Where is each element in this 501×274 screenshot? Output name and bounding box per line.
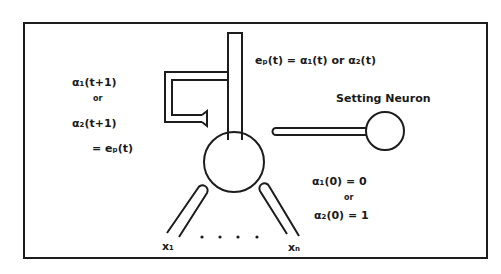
main-neuron-circle: [204, 132, 264, 192]
output-axon: [228, 33, 242, 140]
input-dendrite-last: [259, 183, 299, 236]
feedback-label-equals: = eₚ(t): [92, 142, 133, 155]
feedback-label-or: or: [93, 94, 102, 103]
setting-neuron-circle: [366, 112, 404, 150]
setting-neuron-label: Setting Neuron: [336, 92, 431, 105]
init-label-or: or: [344, 193, 353, 202]
output-equation: eₚ(t) = α₁(t) or α₂(t): [255, 54, 376, 67]
feedback-loop: [165, 72, 228, 126]
setting-neuron: [273, 112, 405, 150]
input-label-first: x₁: [162, 240, 174, 253]
neuron-diagram: x₁ xₙ α₁(t+1) or α₂(t+1) = eₚ(t) eₚ(t) =…: [0, 0, 501, 274]
input-ellipsis: [200, 235, 258, 238]
init-label-alpha1: α₁(0) = 0: [312, 175, 367, 188]
input-label-last: xₙ: [288, 241, 300, 254]
input-dendrite-first: [167, 185, 208, 237]
feedback-label-alpha2: α₂(t+1): [72, 117, 117, 130]
init-label-alpha2: α₂(0) = 1: [314, 209, 369, 222]
feedback-label-alpha1: α₁(t+1): [72, 76, 117, 89]
